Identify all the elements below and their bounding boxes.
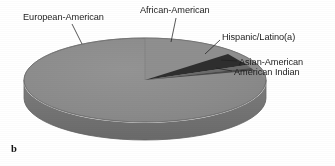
figure-panel-label: b	[11, 143, 17, 154]
pie-label-african-american: African-American	[140, 5, 210, 15]
leader-line-african	[171, 18, 176, 42]
pie-label-american-indian: American Indian	[234, 67, 300, 77]
leader-line-european	[72, 24, 82, 44]
pie-chart-graphic	[0, 0, 335, 166]
pie-label-european-american: European-American	[23, 12, 104, 22]
pie-chart-figure: European-American African-American Hispa…	[0, 0, 335, 166]
pie-label-asian-american: Asian-American	[239, 57, 303, 67]
pie-top-surface	[24, 38, 266, 122]
pie-label-hispanic-latino: Hispanic/Latino(a)	[222, 32, 295, 42]
